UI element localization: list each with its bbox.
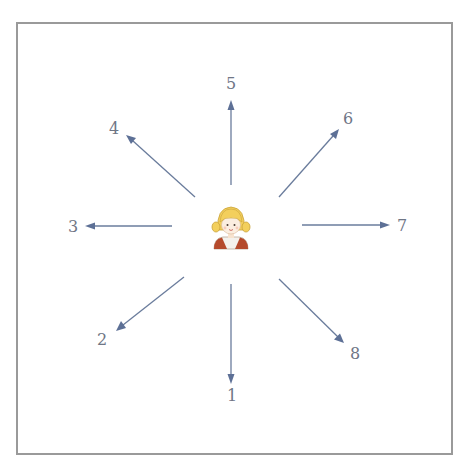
direction-label-6: 6 <box>343 109 353 128</box>
direction-diagram: 1 2 3 4 5 6 7 8 <box>0 0 466 475</box>
direction-label-4: 4 <box>109 119 119 138</box>
arrow-7 <box>302 222 390 229</box>
arrow-1 <box>228 284 235 384</box>
direction-label-1: 1 <box>227 386 237 405</box>
arrow-2 <box>116 277 184 331</box>
direction-label-2: 2 <box>97 330 107 349</box>
direction-label-8: 8 <box>350 344 360 363</box>
direction-label-3: 3 <box>68 217 78 236</box>
direction-label-7: 7 <box>397 216 407 235</box>
arrow-3 <box>85 223 172 230</box>
direction-label-5: 5 <box>226 74 236 93</box>
arrow-4 <box>126 135 195 197</box>
arrow-6 <box>279 129 339 197</box>
girl-character-icon <box>212 207 250 249</box>
arrow-5 <box>228 100 235 185</box>
arrow-8 <box>279 279 344 343</box>
